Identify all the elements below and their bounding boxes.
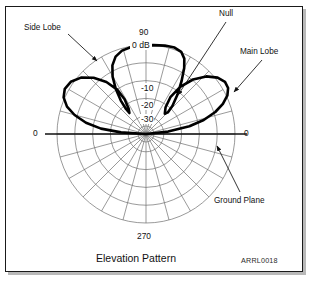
annotation-null: Null: [219, 9, 233, 18]
main-lobe-leader: [234, 60, 262, 92]
annotation-main-lobe: Main Lobe: [240, 47, 278, 56]
side-lobe-leader: [68, 34, 97, 61]
radial-tick-minus30: -30: [140, 114, 154, 124]
radial-tick-minus20: -20: [140, 100, 154, 110]
outer-ring-db-label: 0 dB: [130, 40, 152, 50]
figure-caption: Elevation Pattern: [96, 252, 176, 264]
axis-label-right: 0: [244, 128, 249, 138]
figure-root: Side Lobe Null Main Lobe Ground Plane 90…: [0, 0, 314, 284]
radial-tick-minus10: -10: [140, 83, 154, 93]
axis-label-bottom: 270: [137, 231, 151, 241]
figure-id-code: ARRL0018: [241, 256, 278, 265]
ground-plane-leader: [217, 146, 240, 192]
polar-diagram: [0, 0, 314, 284]
annotation-ground-plane: Ground Plane: [214, 196, 265, 205]
axis-label-top: 90: [139, 27, 148, 37]
annotation-side-lobe: Side Lobe: [24, 23, 61, 32]
axis-label-left: 0: [33, 128, 38, 138]
